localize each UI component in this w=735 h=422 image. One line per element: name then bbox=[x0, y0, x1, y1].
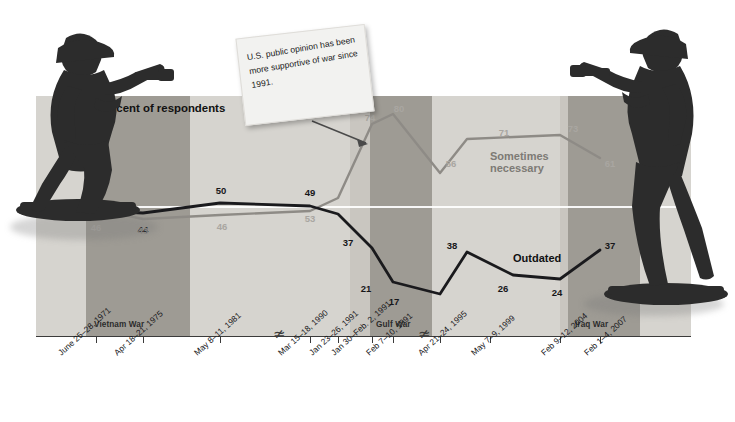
series-label-outdated: Outdated bbox=[513, 252, 561, 264]
figure-canvas: Vietnam War Gulf War Iraq War 46 44 50 4… bbox=[0, 0, 735, 422]
callout-box: U.S. public opinion has been more suppor… bbox=[235, 24, 374, 126]
value-outdated-8: 26 bbox=[498, 283, 509, 294]
value-outdated-9: 24 bbox=[552, 287, 563, 298]
value-outdated-3: 49 bbox=[305, 187, 316, 198]
value-outdated-5: 21 bbox=[361, 283, 372, 294]
value-outdated-2: 50 bbox=[216, 185, 227, 196]
value-sometimes-7: 71 bbox=[499, 127, 510, 138]
value-sometimes-4: 74 bbox=[365, 112, 376, 123]
right-soldier-figure bbox=[568, 12, 735, 308]
value-outdated-7: 38 bbox=[447, 240, 458, 251]
callout-text: U.S. public opinion has been more suppor… bbox=[246, 33, 363, 93]
x-tick-3 bbox=[310, 336, 311, 343]
value-sometimes-5: 80 bbox=[394, 103, 405, 114]
callout-leader bbox=[312, 121, 368, 147]
value-sometimes-2: 46 bbox=[217, 221, 228, 232]
series-label-sometimes-line2: necessary bbox=[490, 162, 549, 174]
series-label-sometimes-line1: Sometimes bbox=[490, 150, 549, 162]
series-label-sometimes: Sometimes necessary bbox=[490, 150, 549, 175]
x-tick-1 bbox=[143, 336, 144, 343]
value-sometimes-6: 56 bbox=[446, 158, 457, 169]
value-sometimes-3: 53 bbox=[305, 213, 316, 224]
axis-break-1: ≄ bbox=[273, 326, 286, 341]
x-tick-0 bbox=[96, 336, 97, 343]
value-outdated-4: 37 bbox=[343, 237, 354, 248]
left-soldier-figure bbox=[8, 14, 178, 224]
